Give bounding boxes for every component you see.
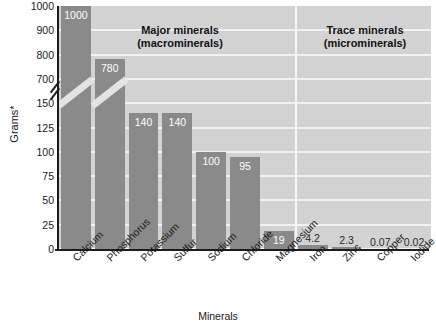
y-axis-tick-label: 25: [14, 220, 54, 230]
y-axis-tick-label: 0: [14, 244, 54, 254]
section-title-major: Major minerals(macrominerals): [100, 24, 260, 50]
bar-value-label: 140: [162, 116, 192, 128]
section-title-major-line1: Major minerals: [100, 24, 260, 37]
bar-value-label: 140: [129, 116, 159, 128]
bar-value-label: 95: [230, 160, 260, 172]
bar-value-label: 100: [196, 155, 226, 167]
y-axis-tick-label: 75: [14, 171, 54, 181]
gridline: [59, 54, 431, 56]
bar-value-label: 780: [95, 62, 125, 74]
y-axis-tick-label: 1000: [14, 1, 54, 11]
section-title-trace-line1: Trace minerals: [300, 24, 430, 37]
bar: [61, 6, 91, 249]
section-title-trace: Trace minerals(microminerals): [300, 24, 430, 50]
chart-root: Grams* 10009008007001501251007550250 100…: [0, 0, 436, 328]
y-axis-tick-label: 125: [14, 123, 54, 133]
section-title-major-line2: (macrominerals): [100, 37, 260, 50]
y-axis-tick-label: 100: [14, 147, 54, 157]
y-axis-tick-label: 150: [14, 98, 54, 108]
y-axis-tick-label: 700: [14, 74, 54, 84]
y-axis-tick-label: 900: [14, 25, 54, 35]
x-axis-title: Minerals: [0, 310, 436, 322]
group-divider: [295, 6, 297, 249]
bar-value-label: 1000: [61, 9, 91, 21]
y-axis-tick-label: 50: [14, 195, 54, 205]
y-axis-tick-label: 800: [14, 50, 54, 60]
section-title-trace-line2: (microminerals): [300, 37, 430, 50]
y-axis-tick-labels: 10009008007001501251007550250: [8, 0, 54, 328]
